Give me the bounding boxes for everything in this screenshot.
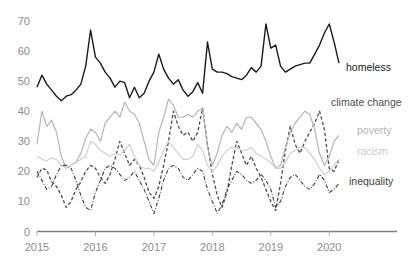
line-chart: 010203040506070 201520162017201820192020…	[0, 0, 411, 267]
series-label-inequality: inequality	[349, 175, 394, 187]
y-tick-label: 20	[18, 165, 30, 177]
y-tick-label: 60	[18, 45, 30, 57]
y-axis-tick-labels: 010203040506070	[18, 15, 30, 237]
y-tick-label: 50	[18, 75, 30, 87]
series-line-homeless	[37, 24, 339, 101]
x-tick-label: 2018	[200, 241, 224, 253]
y-tick-label: 0	[24, 226, 30, 238]
y-tick-label: 10	[18, 195, 30, 207]
x-tick-label: 2020	[317, 241, 341, 253]
chart-svg: 010203040506070 201520162017201820192020…	[0, 0, 411, 267]
y-tick-label: 40	[18, 105, 30, 117]
x-tick-label: 2017	[142, 241, 166, 253]
series-line-inequality	[37, 165, 339, 213]
x-tick-label: 2015	[25, 241, 49, 253]
series-lines	[37, 24, 339, 213]
series-inline-labels: homelessclimate changepovertyracisminequ…	[331, 61, 402, 187]
series-label-climate-change: climate change	[331, 96, 402, 108]
x-tick-label: 2016	[83, 241, 107, 253]
y-tick-label: 70	[18, 15, 30, 27]
series-label-poverty: poverty	[357, 124, 392, 136]
series-line-racism	[37, 141, 339, 174]
x-axis-line	[37, 232, 397, 237]
x-axis-tick-labels: 201520162017201820192020	[25, 241, 342, 253]
y-tick-label: 30	[18, 135, 30, 147]
series-label-homeless: homeless	[346, 61, 391, 73]
x-tick-label: 2019	[259, 241, 283, 253]
series-label-racism: racism	[357, 145, 388, 157]
